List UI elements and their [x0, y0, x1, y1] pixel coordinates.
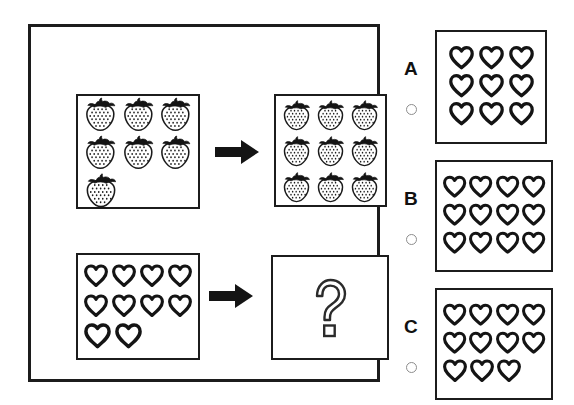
item-row [83, 322, 193, 349]
option-b[interactable]: B [392, 156, 562, 274]
strawberry-icon [158, 133, 193, 170]
heart-icon [139, 262, 165, 289]
puzzle-root: A B C [0, 0, 574, 405]
item-row [83, 292, 193, 319]
heart-icon [442, 202, 467, 227]
example-right-box [274, 94, 387, 207]
strawberry-icon [349, 169, 380, 204]
heart-icon [521, 174, 546, 199]
heart-icon [83, 292, 109, 319]
heart-icon [83, 262, 109, 289]
item-row [442, 302, 546, 327]
heart-icon [468, 302, 493, 327]
heart-icon [495, 302, 520, 327]
strawberry-icon [83, 95, 118, 132]
strawberry-icon [315, 97, 346, 132]
strawberry-icon [281, 97, 312, 132]
item-row [281, 133, 380, 168]
heart-icon [521, 330, 546, 355]
item-row [442, 174, 546, 199]
heart-icon [508, 73, 535, 98]
item-row [442, 330, 546, 355]
strawberry-icon [121, 95, 156, 132]
strawberry-group-seven [78, 96, 198, 207]
item-row [442, 230, 546, 255]
item-row [442, 45, 540, 70]
answer-options: A B C [392, 18, 562, 388]
strawberry-icon [121, 133, 156, 170]
heart-icon [442, 174, 467, 199]
heart-icon [167, 292, 193, 319]
item-row [442, 202, 546, 227]
heart-icon [468, 202, 493, 227]
strawberry-icon [281, 133, 312, 168]
right-arrow-icon [215, 139, 259, 165]
heart-icon [478, 101, 505, 126]
option-b-label: B [404, 188, 418, 210]
option-b-heart-group [437, 162, 551, 270]
example-left-box [76, 94, 200, 209]
heart-icon [495, 202, 520, 227]
heart-icon [521, 302, 546, 327]
heart-icon [478, 45, 505, 70]
item-row [281, 169, 380, 204]
heart-icon [83, 322, 112, 349]
strawberry-icon [83, 133, 118, 170]
item-row [83, 95, 193, 132]
strawberry-icon [349, 97, 380, 132]
item-row [281, 97, 380, 132]
heart-icon [442, 358, 468, 383]
heart-icon [495, 174, 520, 199]
question-mark-icon [273, 257, 387, 358]
heart-icon [495, 330, 520, 355]
heart-icon [448, 101, 475, 126]
item-row [83, 262, 193, 289]
heart-icon [448, 73, 475, 98]
option-c-label: C [404, 316, 418, 338]
strawberry-icon [83, 171, 119, 208]
strawberry-icon [315, 133, 346, 168]
heart-icon [442, 230, 467, 255]
heart-icon [496, 358, 522, 383]
heart-icon [495, 230, 520, 255]
item-row [83, 133, 193, 170]
strawberry-group-nine [276, 96, 385, 205]
heart-icon [448, 45, 475, 70]
heart-icon [521, 230, 546, 255]
heart-icon [114, 322, 143, 349]
option-c-box[interactable] [435, 288, 553, 400]
heart-icon [469, 358, 495, 383]
main-puzzle-panel [28, 24, 380, 382]
option-c-heart-group [437, 290, 551, 398]
heart-icon [139, 292, 165, 319]
question-left-box [76, 253, 200, 360]
item-row [83, 171, 193, 208]
heart-icon [508, 101, 535, 126]
option-b-radio[interactable] [406, 234, 417, 245]
heart-icon [167, 262, 193, 289]
heart-icon [442, 302, 467, 327]
heart-icon [478, 73, 505, 98]
heart-icon [442, 330, 467, 355]
option-a-label: A [404, 58, 418, 80]
item-row [442, 101, 540, 126]
option-a[interactable]: A [392, 26, 562, 144]
heart-icon [468, 230, 493, 255]
option-c-radio[interactable] [406, 362, 417, 373]
strawberry-icon [315, 169, 346, 204]
heart-icon [521, 202, 546, 227]
option-b-box[interactable] [435, 160, 553, 272]
question-answer-box [271, 255, 389, 360]
right-arrow-icon [209, 283, 253, 309]
heart-group-ten [78, 255, 198, 358]
strawberry-icon [158, 95, 193, 132]
item-row [442, 358, 546, 383]
option-a-box[interactable] [435, 30, 547, 144]
heart-icon [508, 45, 535, 70]
heart-icon [468, 330, 493, 355]
option-c[interactable]: C [392, 284, 562, 402]
strawberry-icon [281, 169, 312, 204]
option-a-radio[interactable] [406, 104, 417, 115]
heart-icon [111, 262, 137, 289]
heart-icon [111, 292, 137, 319]
